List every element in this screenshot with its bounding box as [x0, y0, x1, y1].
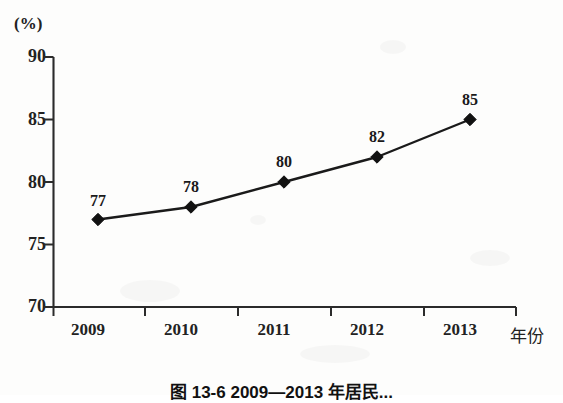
data-point-marker-2013 — [464, 113, 476, 125]
x-tick-label-2012: 2012 — [332, 320, 402, 340]
x-tick-label-2013: 2013 — [425, 320, 495, 340]
point-label-2011: 80 — [267, 153, 301, 171]
figure-caption: 图 13-6 2009—2013 年居民... — [0, 378, 563, 403]
point-label-2009: 77 — [81, 192, 115, 210]
point-label-2010: 78 — [174, 178, 208, 196]
data-point-marker-2009 — [92, 213, 104, 225]
data-point-marker-2012 — [371, 151, 383, 163]
point-label-2013: 85 — [453, 91, 487, 109]
x-tick-label-2011: 2011 — [239, 320, 309, 340]
point-label-2012: 82 — [360, 128, 394, 146]
x-tick-label-2009: 2009 — [53, 320, 123, 340]
x-tick-label-2010: 2010 — [146, 320, 216, 340]
data-point-marker-2010 — [185, 201, 197, 213]
x-axis-title: 年份 — [510, 322, 544, 347]
data-point-marker-2011 — [278, 176, 290, 188]
